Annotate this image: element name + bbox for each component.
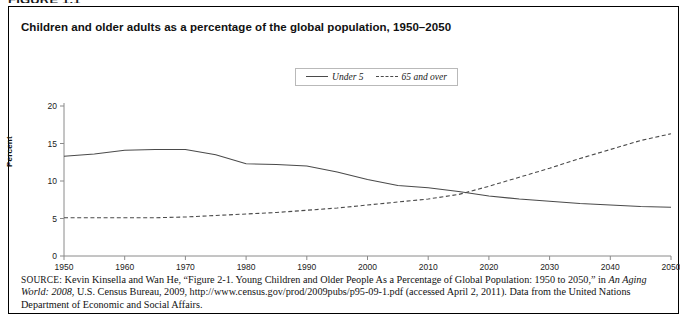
source-note: SOURCE: Kevin Kinsella and Wan He, “Figu… [21,274,669,311]
x-tick-label: 2050 [662,262,680,272]
y-tick-label: 0 [52,251,57,261]
chart-canvas: 0510152019501960197019801990200020102020… [9,7,680,315]
x-tick-label: 2040 [601,262,620,272]
y-tick-label: 15 [48,139,58,149]
figure-panel: Children and older adults as a percentag… [8,6,679,314]
series-line-2 [64,134,671,218]
source-text-part-1: Kevin Kinsella and Wan He, “Figure 2-1. … [62,274,608,285]
x-tick-label: 2030 [540,262,559,272]
source-text-part-2: , U.S. Census Bureau, 2009, http://www.c… [21,286,630,309]
x-tick-label: 1980 [237,262,256,272]
y-tick-label: 5 [52,214,57,224]
x-tick-label: 2020 [479,262,498,272]
x-tick-label: 1950 [55,262,74,272]
x-tick-label: 1960 [115,262,134,272]
x-tick-label: 2010 [419,262,438,272]
y-tick-label: 20 [48,101,58,111]
figure-number-label: FIGURE 1.1 [8,0,81,3]
x-tick-label: 1990 [297,262,316,272]
source-kicker: SOURCE: [21,275,62,285]
x-tick-label: 2000 [358,262,377,272]
figure-root: FIGURE 1.1 Children and older adults as … [0,0,689,322]
plot-area: Percent 05101520195019601970198019902000… [9,7,680,315]
x-tick-label: 1970 [176,262,195,272]
y-tick-label: 10 [48,176,58,186]
